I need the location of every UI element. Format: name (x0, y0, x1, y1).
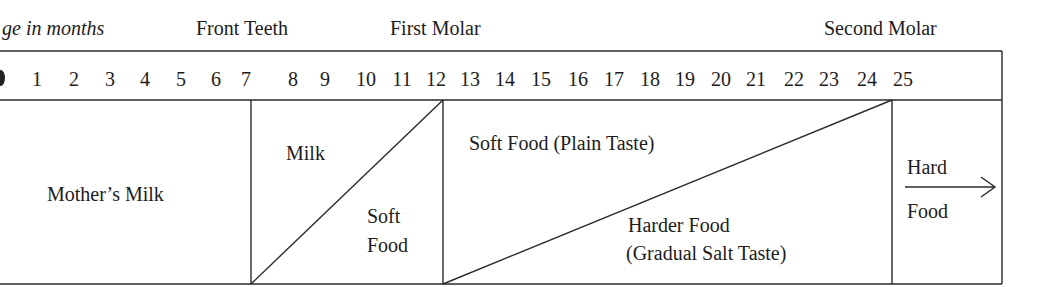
stage-soft-food-label-line2: Food (367, 233, 408, 257)
stage-soft-food-plain-taste-label: Soft Food (Plain Taste) (469, 131, 654, 155)
stage-hard-food-label-line1: Hard (907, 155, 947, 179)
stage-mothers-milk-label: Mother’s Milk (47, 182, 164, 206)
diagonal-milk-to-soft (251, 100, 443, 284)
right-arrow-icon (905, 177, 995, 197)
stage-soft-food-label-line1: Soft (367, 204, 400, 228)
stage-harder-food-label-line2: (Gradual Salt Taste) (626, 241, 786, 265)
stage-milk-label: Milk (286, 141, 325, 165)
stage-hard-food-label-line2: Food (907, 199, 948, 223)
stage-harder-food-label-line1: Harder Food (628, 213, 730, 237)
